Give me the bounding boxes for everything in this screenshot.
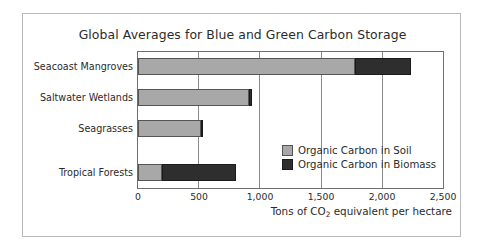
legend-item-soil[interactable]: Organic Carbon in Soil (282, 144, 436, 157)
bar-segment-soil[interactable] (138, 89, 249, 106)
bar-segment-biomass[interactable] (355, 58, 412, 75)
legend-swatch-icon (282, 159, 293, 170)
category-label-seacoast-mangroves: Seacoast Mangroves (34, 58, 133, 75)
xtick-label-2000: 2,000 (369, 191, 396, 202)
legend-item-biomass[interactable]: Organic Carbon in Biomass (282, 158, 436, 171)
x-axis-title: Tons of CO2 equivalent per hectare (23, 205, 452, 217)
xtick-label-0: 0 (135, 191, 141, 202)
chart-title: Global Averages for Blue and Green Carbo… (23, 27, 462, 42)
xtick-label-1500: 1,500 (308, 191, 335, 202)
bar-segment-soil[interactable] (138, 164, 162, 181)
x-axis-title-prefix: Tons of CO (271, 205, 326, 217)
bar-segment-soil[interactable] (138, 120, 201, 137)
category-label-seagrasses: Seagrasses (78, 120, 133, 137)
xtick-label-2500: 2,500 (430, 191, 457, 202)
x-axis-title-subscript: 2 (326, 210, 331, 219)
legend-label: Organic Carbon in Biomass (298, 159, 436, 170)
xtick-label-500: 500 (190, 191, 208, 202)
plot-area: Seacoast Mangroves Saltwater Wetlands Se… (137, 51, 444, 189)
category-label-tropical-forests: Tropical Forests (59, 164, 133, 181)
bar-segment-soil[interactable] (138, 58, 355, 75)
x-axis-title-suffix: equivalent per hectare (330, 205, 452, 217)
bar-segment-biomass[interactable] (162, 164, 235, 181)
legend: Organic Carbon in Soil Organic Carbon in… (282, 144, 436, 172)
legend-swatch-icon (282, 145, 293, 156)
bar-segment-biomass[interactable] (249, 89, 252, 106)
chart-figure: Global Averages for Blue and Green Carbo… (22, 13, 461, 237)
legend-label: Organic Carbon in Soil (298, 145, 412, 156)
category-label-saltwater-wetlands: Saltwater Wetlands (40, 89, 133, 106)
xtick-label-1000: 1,000 (247, 191, 274, 202)
bar-segment-biomass[interactable] (201, 120, 203, 137)
